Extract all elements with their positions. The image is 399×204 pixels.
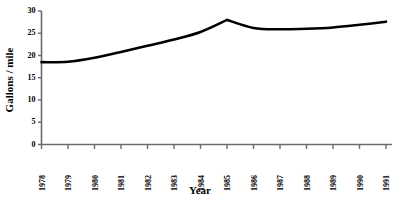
y-tick-label: 5	[14, 118, 36, 126]
x-tick-label: 1990	[355, 151, 367, 191]
y-tick-label: 30	[14, 7, 36, 15]
x-tick-label-text: 1987	[275, 151, 287, 191]
x-tick-label-text: 1988	[302, 151, 314, 191]
y-tick-label: 20	[14, 52, 36, 60]
x-tick-label: 1989	[328, 151, 340, 191]
x-tick-label: 1986	[249, 151, 261, 191]
y-tick-label: 10	[14, 96, 36, 104]
x-tick-label-text: 1991	[381, 151, 393, 191]
x-tick-label-text: 1989	[328, 151, 340, 191]
data-series-line	[42, 20, 387, 62]
x-tick-label-text: 1986	[249, 151, 261, 191]
y-tick-label: 15	[14, 74, 36, 82]
y-tick-label: 0	[14, 141, 36, 149]
x-tick-label: 1987	[275, 151, 287, 191]
x-tick-label-text: 1981	[116, 151, 128, 191]
x-tick-label: 1981	[116, 151, 128, 191]
x-tick-label-text: 1980	[90, 151, 102, 191]
x-tick-label: 1978	[37, 151, 49, 191]
y-tick-label: 25	[14, 29, 36, 37]
chart-container: Gallons / mile 051015202530 197819791980…	[0, 0, 399, 204]
x-tick-label-text: 1990	[355, 151, 367, 191]
x-tick-label-text: 1979	[63, 151, 75, 191]
x-tick-label-text: 1978	[37, 151, 49, 191]
axis-lines	[41, 11, 392, 145]
x-tick-label: 1988	[302, 151, 314, 191]
x-tick-label: 1991	[381, 151, 393, 191]
x-tick-label: 1979	[63, 151, 75, 191]
x-tick-label: 1980	[90, 151, 102, 191]
x-axis-title: Year	[150, 184, 250, 196]
